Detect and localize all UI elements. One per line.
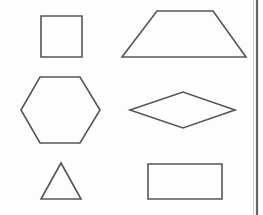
paper-background: [0, 0, 263, 215]
shapes-canvas: [0, 0, 263, 215]
right-margin-band: [248, 0, 257, 215]
shapes-worksheet-page: [0, 0, 263, 215]
